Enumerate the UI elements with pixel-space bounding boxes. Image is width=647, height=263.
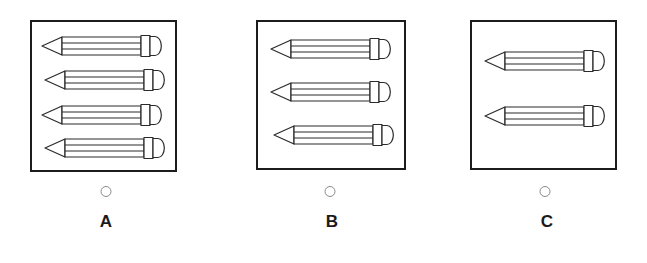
answer-option-a[interactable]: A: [16, 0, 196, 263]
pencil-icon: [40, 102, 163, 128]
radio-button-icon[interactable]: [101, 186, 112, 197]
pencil-icon: [43, 135, 166, 161]
pencil-icon: [43, 67, 166, 93]
radio-button-icon[interactable]: [325, 186, 336, 197]
pencil-icon: [269, 36, 392, 62]
pencil-icon: [269, 79, 392, 105]
pencil-stack-c: [472, 22, 615, 168]
radio-button-icon[interactable]: [540, 186, 551, 197]
option-label-b: B: [242, 212, 422, 232]
pencil-stack-a: [32, 22, 175, 170]
pencil-box-c: [470, 20, 617, 170]
pencil-icon: [40, 33, 163, 59]
pencil-icon: [483, 48, 606, 74]
answer-option-b[interactable]: B: [240, 0, 420, 263]
answer-options-container: A: [0, 0, 647, 263]
pencil-icon: [272, 122, 395, 148]
pencil-icon: [483, 103, 606, 129]
pencil-stack-b: [258, 22, 404, 168]
pencil-box-b: [256, 20, 406, 170]
answer-option-c[interactable]: C: [455, 0, 635, 263]
option-label-c: C: [457, 212, 637, 232]
pencil-box-a: [30, 20, 177, 172]
option-label-a: A: [16, 212, 196, 232]
